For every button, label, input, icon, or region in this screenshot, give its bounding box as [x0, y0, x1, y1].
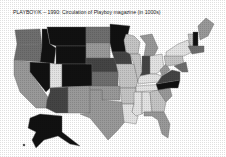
dither-overlay: [0, 0, 226, 157]
us-choropleth-map: [0, 0, 226, 157]
